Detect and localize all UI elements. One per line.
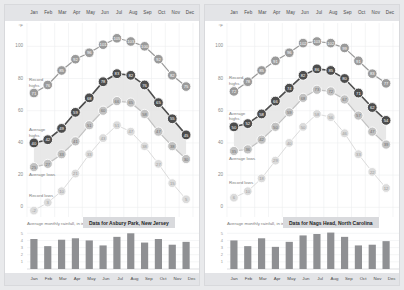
- record-low-point: 46: [340, 129, 349, 138]
- average-high-point: 71: [354, 88, 364, 98]
- average-low-point: 66: [112, 96, 121, 105]
- svg-text:85: 85: [259, 68, 264, 73]
- average-high-point: 62: [367, 103, 377, 113]
- svg-text:103: 103: [313, 39, 321, 44]
- average-high-point: 78: [98, 77, 108, 87]
- svg-text:54: 54: [384, 118, 389, 123]
- svg-text:56: 56: [328, 115, 333, 120]
- record-high-point: 91: [354, 56, 364, 66]
- svg-text:58: 58: [315, 112, 320, 117]
- svg-text:50: 50: [232, 125, 237, 130]
- rain-month-label-nov: Nov: [370, 273, 384, 285]
- rainfall-bar: [86, 240, 93, 269]
- svg-text:66: 66: [273, 99, 278, 104]
- average-high-point: 50: [229, 122, 239, 132]
- record-high-point: 77: [381, 79, 391, 89]
- rainfall-bar: [127, 233, 134, 269]
- rain-month-label-aug: Aug: [327, 273, 341, 285]
- rainfall-plot-svg: [205, 227, 400, 271]
- record-low-point: 33: [354, 150, 363, 159]
- month-label-jun: Jun: [98, 5, 112, 21]
- rain-month-label-apr: Apr: [70, 273, 84, 285]
- svg-text:68: 68: [87, 96, 92, 101]
- temp-axis-tick-0: 0: [205, 204, 223, 209]
- svg-text:38: 38: [142, 144, 147, 149]
- average-high-point: 83: [112, 69, 122, 79]
- record-high-point: 102: [326, 38, 336, 48]
- record-low-point: 51: [113, 121, 122, 130]
- dual-climate-charts: JanFebMarAprMayJunJulAugSepOctNovDec °F …: [0, 0, 404, 290]
- month-label-jul: Jul: [312, 5, 326, 21]
- svg-text:51: 51: [87, 123, 92, 128]
- average-low-point: 42: [257, 135, 266, 144]
- rain-month-label-mar: Mar: [56, 273, 70, 285]
- month-header-strip: JanFebMarAprMayJunJulAugSepOctNovDec: [205, 5, 399, 21]
- svg-text:40: 40: [287, 141, 292, 146]
- svg-text:102: 102: [327, 41, 335, 46]
- rainfall-bar: [327, 233, 334, 269]
- svg-text:35: 35: [232, 149, 237, 154]
- rainfall-bar: [341, 237, 348, 269]
- rainfall-bar: [182, 242, 189, 269]
- rainfall-bar: [169, 245, 176, 269]
- month-label-nov: Nov: [169, 5, 183, 21]
- svg-text:58: 58: [142, 112, 147, 117]
- record-high-point: 72: [229, 87, 239, 97]
- record-high-point: 102: [298, 38, 308, 48]
- temp-axis-tick-60: 60: [205, 108, 223, 113]
- record-high-point: 82: [167, 71, 177, 81]
- temp-axis-tick-100: 100: [205, 43, 223, 48]
- svg-text:59: 59: [73, 110, 78, 115]
- rain-axis-tick-2: 2: [7, 252, 23, 257]
- record-high-point: 103: [312, 37, 322, 47]
- rainfall-month-strip: JanFebMarAprMayJunJulAugSepOctNovDec: [205, 273, 400, 285]
- record-low-point: 10: [57, 187, 66, 196]
- rainfall-bar: [30, 239, 37, 269]
- rainfall-chart: Average monthly rainfall, in inches JanF…: [205, 221, 400, 285]
- rain-axis-tick-5: 5: [207, 231, 223, 236]
- svg-text:66: 66: [115, 99, 120, 104]
- month-label-oct: Oct: [155, 5, 169, 21]
- temp-axis-tick-80: 80: [5, 76, 23, 81]
- month-label-mar: Mar: [255, 5, 269, 21]
- average-high-point: 54: [381, 115, 391, 125]
- svg-text:68: 68: [301, 96, 306, 101]
- record-low-point: 56: [326, 113, 335, 122]
- average-low-point: 41: [71, 137, 80, 146]
- svg-text:82: 82: [170, 73, 175, 78]
- svg-text:50: 50: [301, 125, 306, 130]
- rain-month-label-may: May: [284, 273, 298, 285]
- svg-text:91: 91: [356, 59, 361, 64]
- month-label-apr: Apr: [270, 5, 284, 21]
- rainfall-bar: [313, 234, 320, 269]
- rainfall-bar: [155, 239, 162, 269]
- average-high-point: 65: [154, 98, 164, 108]
- average-low-point: 57: [354, 111, 363, 120]
- record-low-point: 58: [313, 110, 322, 119]
- average-high-point: 76: [140, 80, 150, 90]
- record-high-point: 91: [271, 56, 281, 66]
- temp-axis-tick-40: 40: [5, 140, 23, 145]
- climate-panel: JanFebMarAprMayJunJulAugSepOctNovDec °F …: [204, 4, 400, 286]
- temp-axis-tick-40: 40: [205, 140, 223, 145]
- svg-text:45: 45: [184, 133, 189, 138]
- svg-text:51: 51: [115, 123, 120, 128]
- rainfall-bar: [286, 242, 293, 269]
- svg-text:15: 15: [170, 181, 175, 186]
- svg-text:52: 52: [245, 121, 250, 126]
- average-low-point: 59: [285, 108, 294, 117]
- month-label-may: May: [84, 5, 98, 21]
- rainfall-bar: [230, 240, 237, 269]
- average-low-point: 39: [381, 140, 390, 149]
- average-highs-label: Average highs: [229, 111, 245, 122]
- svg-text:33: 33: [87, 152, 92, 157]
- average-lows-label: Average lows: [29, 172, 55, 178]
- rainfall-bar: [58, 240, 65, 269]
- temp-axis-tick-20: 20: [5, 172, 23, 177]
- average-low-point: 67: [340, 95, 349, 104]
- svg-text:73: 73: [315, 87, 320, 92]
- svg-text:76: 76: [142, 83, 147, 88]
- rain-month-label-dec: Dec: [385, 273, 399, 285]
- month-label-jul: Jul: [112, 5, 126, 21]
- average-low-point: 38: [168, 142, 177, 151]
